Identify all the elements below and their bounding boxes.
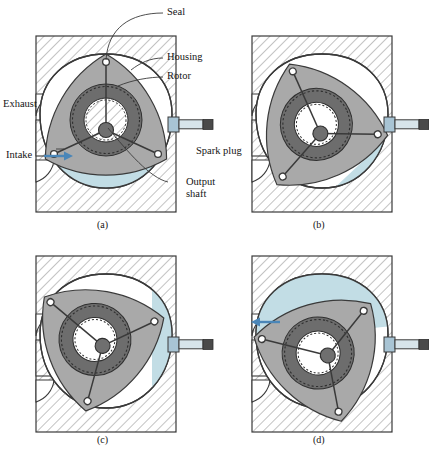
label-exhaust: Exhaust — [3, 98, 37, 110]
label-seal: Seal — [167, 6, 185, 18]
output-shaft-hub-a — [99, 123, 114, 138]
caption-panel-b: (b) — [313, 219, 325, 230]
rotary-engine-figure: Seal Housing Rotor Exhaust Intake Spark … — [0, 0, 429, 454]
caption-panel-a: (a) — [97, 219, 108, 230]
caption-panel-c: (c) — [97, 434, 108, 445]
label-housing: Housing — [167, 51, 203, 63]
label-rotor: Rotor — [167, 70, 191, 82]
label-spark-plug: Spark plug — [196, 145, 242, 157]
caption-panel-d: (d) — [313, 434, 325, 445]
label-intake: Intake — [6, 149, 32, 161]
engine-diagram-svg — [0, 0, 429, 454]
label-output-shaft-line1: Output — [186, 176, 215, 188]
label-output-shaft-line2: shaft — [186, 188, 206, 200]
